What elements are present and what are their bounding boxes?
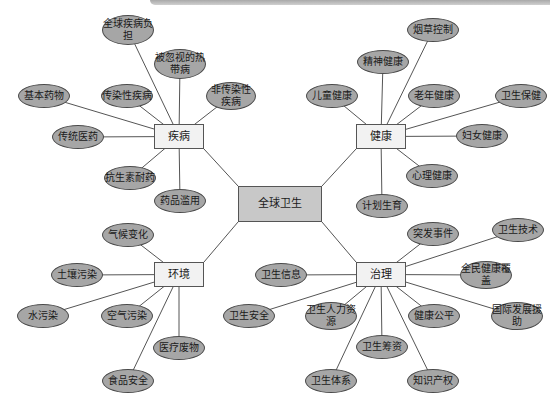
leaf-node: 计划生育 <box>356 194 408 218</box>
leaf-node: 基本药物 <box>18 84 70 108</box>
root-node: 全球卫生 <box>238 186 322 222</box>
root-link-governance <box>322 222 356 262</box>
root-link-health <box>322 149 356 186</box>
leaf-node: 知识产权 <box>407 369 459 393</box>
leaf-node: 水污染 <box>17 304 69 328</box>
leaf-node: 传统医药 <box>52 125 104 149</box>
leaf-node: 烟草控制 <box>407 18 459 42</box>
leaf-node: 卫生体系 <box>305 369 357 393</box>
leaf-node: 儿童健康 <box>306 84 358 108</box>
hub-node-health: 健康 <box>356 124 406 149</box>
leaf-node: 气候变化 <box>102 223 154 247</box>
leaf-node: 卫生安全 <box>223 304 275 328</box>
leaf-link-disease-0 <box>128 30 179 137</box>
leaf-link-environment-5 <box>128 275 179 382</box>
leaf-node: 突发事件 <box>407 222 459 246</box>
leaf-link-health-0 <box>381 30 433 137</box>
hub-node-environment: 环境 <box>154 262 204 287</box>
leaf-node: 心理健康 <box>406 164 458 188</box>
leaf-node: 非传染性疾病 <box>206 82 256 110</box>
hub-node-disease: 疾病 <box>154 124 204 149</box>
leaf-node: 药品滥用 <box>154 189 206 213</box>
leaf-node: 卫生人力资源 <box>305 302 357 330</box>
leaf-node: 被忽视的热带病 <box>154 49 206 79</box>
leaf-node: 健康公平 <box>408 304 460 328</box>
root-link-environment <box>204 222 238 262</box>
leaf-node: 卫生保健 <box>495 84 547 108</box>
leaf-node: 空气污染 <box>101 304 153 328</box>
leaf-node: 医疗废物 <box>153 336 205 360</box>
leaf-node: 全民健康覆盖 <box>460 261 512 289</box>
leaf-node: 老年健康 <box>408 84 460 108</box>
leaf-node: 食品安全 <box>102 369 154 393</box>
leaf-link-governance-10 <box>381 275 433 382</box>
leaf-node: 全球疾病负担 <box>102 15 154 45</box>
hub-node-governance: 治理 <box>356 262 406 287</box>
root-link-disease <box>204 149 238 186</box>
leaf-node: 精神健康 <box>357 50 409 74</box>
leaf-node: 抗生素耐药 <box>104 166 156 190</box>
leaf-node: 卫生信息 <box>255 263 307 287</box>
leaf-node: 妇女健康 <box>456 124 508 148</box>
leaf-node: 传染性疾病 <box>101 84 153 108</box>
leaf-node: 土壤污染 <box>51 263 103 287</box>
leaf-node: 卫生技术 <box>492 218 544 242</box>
leaf-node: 国际发展援助 <box>491 302 543 330</box>
leaf-node: 卫生筹资 <box>356 335 408 359</box>
